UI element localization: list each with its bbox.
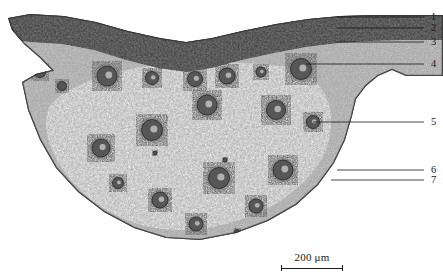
scale-bar-line (281, 268, 343, 269)
vascular-bundle (247, 197, 264, 214)
scale-bar-tick-left (281, 265, 282, 271)
scale-bar-caption: 200 μm (274, 251, 350, 263)
leader-label-2: 2 (431, 23, 436, 34)
leader-label-1: 1 (431, 12, 436, 23)
leader-label-3: 3 (431, 37, 436, 48)
scale-bar-rule (281, 265, 343, 271)
leader-label-5: 5 (431, 117, 436, 128)
vascular-bundle (153, 151, 158, 156)
vascular-bundle (217, 66, 237, 86)
vascular-bundle (57, 81, 68, 92)
vascular-bundle (255, 66, 267, 78)
vascular-bundle (144, 70, 160, 86)
vascular-bundle (223, 158, 228, 163)
leader-label-4: 4 (431, 59, 436, 70)
vascular-bundle (206, 165, 232, 191)
vascular-bundle (271, 158, 295, 182)
vascular-bundle (186, 70, 204, 88)
vascular-bundle (95, 64, 119, 88)
vascular-bundle (150, 190, 170, 210)
vascular-bundle (195, 93, 219, 117)
vascular-bundle (139, 117, 165, 143)
vascular-bundle (187, 215, 204, 232)
vascular-bundle (90, 137, 112, 159)
vascular-bundle (288, 56, 314, 82)
vascular-bundle (111, 176, 124, 189)
micrograph-image (0, 0, 443, 275)
scale-bar-tick-right (342, 265, 343, 271)
scale-bar: 200 μm (274, 251, 350, 273)
vascular-bundle (264, 98, 287, 121)
leader-label-7: 7 (431, 175, 436, 186)
micrograph-figure: · ····· (0, 0, 443, 275)
